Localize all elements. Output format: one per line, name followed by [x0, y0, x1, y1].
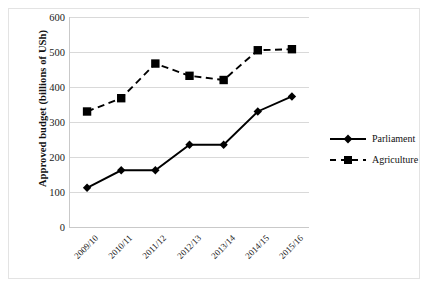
x-axis-tick-label: 2012/13 [175, 233, 203, 261]
data-point-agriculture [151, 59, 159, 67]
y-axis-tick-label: 300 [49, 117, 65, 128]
legend-label-parliament: Parliament [372, 133, 415, 144]
data-point-parliament [83, 184, 91, 192]
x-axis-tick-label: 2013/14 [209, 233, 237, 261]
data-point-agriculture [288, 45, 296, 53]
y-axis-tick-label: 0 [60, 222, 65, 233]
x-axis-tick-label: 2011/12 [141, 233, 169, 261]
data-point-parliament [117, 166, 125, 174]
data-point-agriculture [117, 94, 125, 102]
x-axis-tick-label: 2010/11 [107, 233, 135, 261]
data-point-agriculture [254, 46, 262, 54]
legend-item-agriculture[interactable]: Agriculture [329, 149, 424, 170]
legend-item-parliament[interactable]: Parliament [329, 128, 424, 149]
y-axis-tick-label: 500 [49, 47, 65, 58]
diamond-marker-icon [329, 132, 367, 146]
chart-legend: Parliament Agriculture [329, 128, 424, 170]
chart-figure: Approved budget (billions of USh) 010020… [8, 8, 420, 279]
square-marker-icon [329, 153, 367, 167]
series-plot [70, 17, 309, 227]
y-axis-title: Approved budget (billions of USh) [37, 19, 48, 199]
y-axis-tick-label: 100 [49, 187, 65, 198]
data-point-agriculture [185, 72, 193, 80]
data-point-agriculture [83, 107, 91, 115]
x-axis-tick-label: 2009/10 [72, 233, 100, 261]
legend-label-agriculture: Agriculture [372, 154, 418, 165]
x-axis-tick-label: 2014/15 [243, 233, 271, 261]
data-point-agriculture [219, 76, 227, 84]
y-axis-tick-label: 600 [49, 12, 65, 23]
data-point-parliament [288, 92, 296, 100]
x-axis-tick-label: 2015/16 [277, 233, 305, 261]
plot-area: 0100200300400500600 2009/102010/112011/1… [69, 17, 309, 228]
y-axis-tick-label: 400 [49, 82, 65, 93]
y-axis-tick-label: 200 [49, 152, 65, 163]
